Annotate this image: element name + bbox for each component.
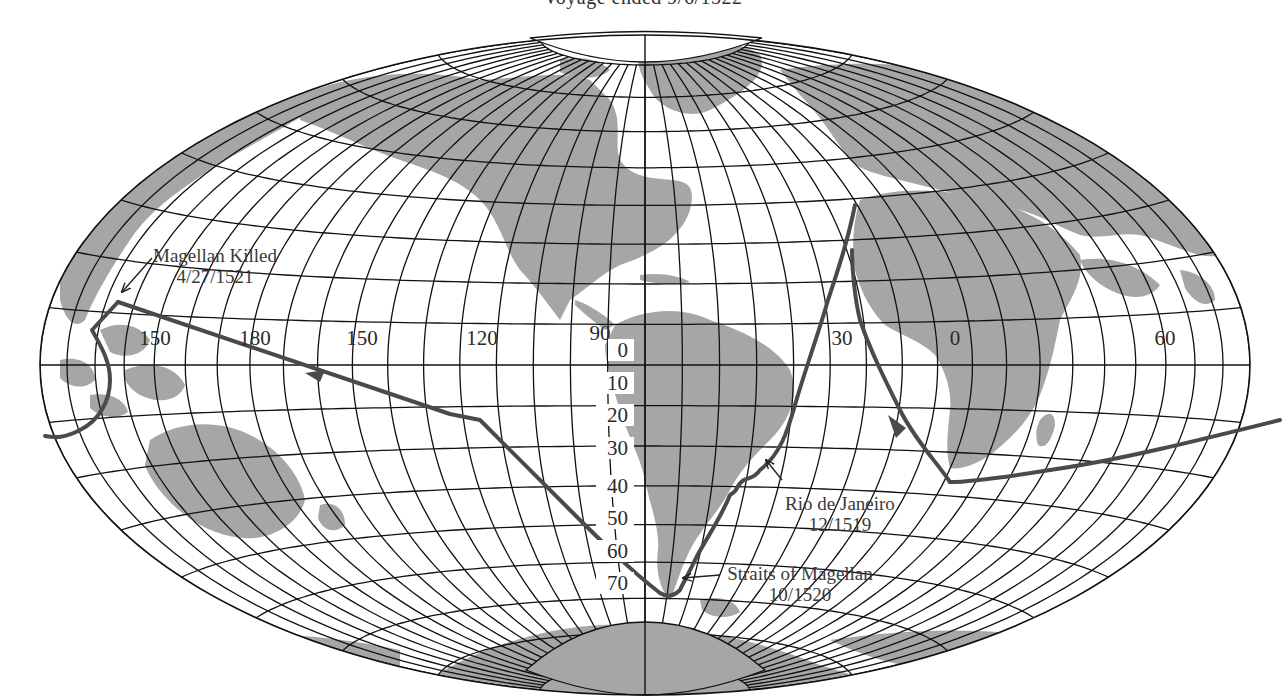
longitude-label: 150 (346, 326, 378, 350)
longitude-label: 0 (950, 326, 961, 350)
annotation-title: Rio de Janeiro (785, 493, 895, 514)
latitude-label: 60 (607, 539, 628, 563)
longitude-label: 180 (239, 326, 271, 350)
annotation-date: 10/1520 (769, 584, 831, 605)
latitude-label: 30 (607, 436, 628, 460)
latitude-label: 40 (607, 474, 628, 498)
longitude-label: 90 (590, 321, 611, 345)
world-map: 1501801501209030060 010203040506070 Mage… (0, 0, 1286, 700)
latitude-label: 10 (607, 371, 628, 395)
latitude-label: 0 (618, 338, 629, 362)
annotation-title: Straits of Magellan (727, 563, 873, 584)
latitude-label: 20 (607, 403, 628, 427)
latitude-label: 50 (607, 506, 628, 530)
annotation-date: 4/27/1521 (176, 266, 253, 287)
longitude-label: 60 (1155, 326, 1176, 350)
annotation-title: Magellan Killed (153, 245, 277, 266)
longitude-label: 150 (139, 326, 171, 350)
latitude-label: 70 (607, 571, 628, 595)
longitude-label: 30 (832, 326, 853, 350)
longitude-label: 120 (466, 326, 498, 350)
annotation-date: 12/1519 (809, 514, 871, 535)
